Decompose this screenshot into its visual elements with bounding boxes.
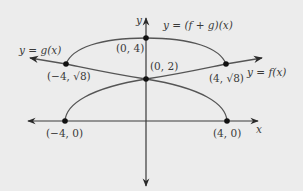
function-sum-diagram: y x y = (f + g)(x) y = g(x) y = f(x) (0,…: [0, 0, 303, 191]
point-label-4-0: (4, 0): [213, 127, 241, 139]
label-g: y = g(x): [18, 44, 61, 56]
label-f: y = f(x): [246, 66, 286, 78]
y-axis-label: y: [135, 14, 143, 26]
point-4-0: [224, 118, 230, 124]
x-axis-label: x: [256, 123, 262, 135]
point-neg4-sqrt8: [63, 61, 69, 67]
point-label-neg4-0: (−4, 0): [46, 127, 83, 139]
point-label-0-4: (0, 4): [116, 42, 144, 54]
graph-canvas: y x y = (f + g)(x) y = g(x) y = f(x) (0,…: [0, 0, 303, 191]
point-label-neg4-sqrt8: (−4, √8): [47, 70, 91, 82]
point-neg4-0: [62, 118, 68, 124]
curve-g: [30, 58, 227, 121]
label-f-plus-g: y = (f + g)(x): [162, 19, 233, 31]
point-label-0-2: (0, 2): [150, 60, 178, 72]
point-0-2: [143, 76, 149, 82]
point-4-sqrt8: [223, 61, 229, 67]
point-label-4-sqrt8: (4, √8): [209, 72, 244, 84]
point-0-4: [143, 35, 149, 41]
